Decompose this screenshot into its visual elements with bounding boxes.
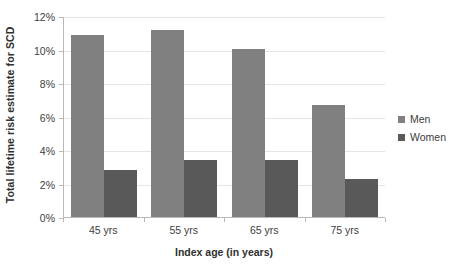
x-axis-tick-mark [144, 218, 145, 222]
y-axis-title-text: Total lifetime risk estimate for SCD [4, 27, 16, 204]
bar-group [64, 17, 144, 217]
x-axis-tick-label: 55 yrs [144, 224, 225, 242]
y-axis-tick-labels: 0%2%4%6%8%10%12% [20, 17, 60, 218]
y-axis-tick-label: 10% [34, 45, 55, 57]
x-axis-tick-label: 75 yrs [305, 224, 386, 242]
x-axis-tick-label: 45 yrs [63, 224, 144, 242]
x-axis-tick-label: 65 yrs [224, 224, 305, 242]
bar-women-55-yrs [184, 160, 217, 217]
legend-label: Women [410, 131, 446, 143]
y-axis-tick-label: 8% [40, 78, 55, 90]
y-axis-title: Total lifetime risk estimate for SCD [0, 0, 20, 230]
bar-group [305, 17, 385, 217]
x-axis-tick-mark [305, 218, 306, 222]
legend-swatch-icon [398, 116, 405, 123]
y-axis-tick-label: 6% [40, 112, 55, 124]
bar-men-55-yrs [151, 30, 184, 217]
bar-women-45-yrs [104, 170, 137, 217]
y-axis-tick-label: 12% [34, 11, 55, 23]
bar-women-65-yrs [265, 160, 298, 217]
x-axis-tick-mark [63, 218, 64, 222]
chart-legend: MenWomen [398, 110, 464, 146]
legend-label: Men [410, 113, 430, 125]
legend-swatch-icon [398, 134, 405, 141]
x-axis-tick-marks [63, 218, 385, 223]
bar-men-45-yrs [71, 35, 104, 217]
bar-men-75-yrs [312, 105, 345, 217]
bars-layer [64, 17, 385, 217]
x-axis-title: Index age (in years) [63, 246, 385, 258]
bar-men-65-yrs [232, 49, 265, 217]
y-axis-tick-label: 4% [40, 145, 55, 157]
bar-women-75-yrs [345, 179, 378, 217]
x-axis-tick-labels: 45 yrs55 yrs65 yrs75 yrs [63, 224, 385, 242]
bar-group [225, 17, 305, 217]
plot-area [63, 17, 385, 218]
x-axis-tick-mark [224, 218, 225, 222]
x-axis-tick-mark [385, 218, 386, 222]
bar-chart-figure: Total lifetime risk estimate for SCD 0%2… [0, 0, 465, 273]
y-axis-tick-label: 0% [40, 212, 55, 224]
bar-group [144, 17, 224, 217]
legend-entry-men[interactable]: Men [398, 110, 464, 128]
y-axis-tick-label: 2% [40, 179, 55, 191]
legend-entry-women[interactable]: Women [398, 128, 464, 146]
